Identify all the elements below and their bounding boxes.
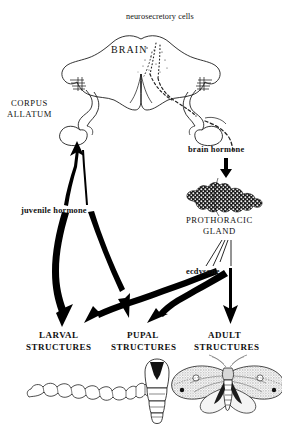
juvenile-hormone-stems xyxy=(64,141,88,206)
label-larval-line2: STRUCTURES xyxy=(26,343,92,353)
prothoracic-gland-organ xyxy=(187,178,262,216)
ecdysone-to-larval-arrow xyxy=(84,268,218,323)
label-corpus-allatum-line1: CORPUS xyxy=(11,99,48,108)
hormone-diagram: neurosecretory cells BRAIN CORPUS ALLATU… xyxy=(0,0,282,441)
label-prothoracic-gland-line2: GLAND xyxy=(203,227,236,236)
adult-moth-figure xyxy=(172,355,282,413)
label-pupal-line1: PUPAL xyxy=(127,331,159,341)
larva-figure xyxy=(27,382,160,400)
label-corpus-allatum-line2: ALLATUM xyxy=(7,110,52,119)
ecdysone-fan-lines xyxy=(206,240,231,266)
label-ecdysone: ecdysone xyxy=(186,267,220,276)
jh-to-larval-arrow xyxy=(52,212,73,327)
label-neurosecretory-cells: neurosecretory cells xyxy=(126,13,194,22)
pupa-figure xyxy=(145,359,169,424)
label-adult-line2: STRUCTURES xyxy=(194,343,260,353)
label-brain: BRAIN xyxy=(111,45,148,56)
ecdysone-to-pupal-arrow xyxy=(147,270,228,323)
label-juvenile-hormone: juvenile hormone xyxy=(21,206,87,215)
label-prothoracic-gland-line1: PROTHORACIC xyxy=(186,216,253,225)
label-pupal-line2: STRUCTURES xyxy=(111,343,177,353)
label-adult-line1: ADULT xyxy=(208,331,241,341)
brain-hormone-arrow xyxy=(220,158,232,178)
label-brain-hormone: brain hormone xyxy=(188,145,244,154)
label-larval-line1: LARVAL xyxy=(39,331,79,341)
